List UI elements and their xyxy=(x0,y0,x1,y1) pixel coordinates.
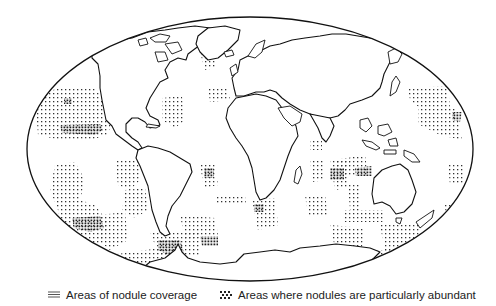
continents xyxy=(92,26,434,284)
australia xyxy=(372,164,416,214)
legend: Areas of nodule coverage Areas where nod… xyxy=(0,289,496,305)
legend-item-abundant: Areas where nodules are particularly abu… xyxy=(220,289,476,301)
antarctica xyxy=(138,244,380,284)
legend-item-coverage: Areas of nodule coverage xyxy=(48,289,197,301)
fine-dot-hatch-icon xyxy=(48,291,60,299)
legend-label-coverage: Areas of nodule coverage xyxy=(66,289,197,301)
japan xyxy=(390,76,400,96)
madagascar xyxy=(294,166,302,184)
india xyxy=(310,114,334,142)
world-map xyxy=(0,0,496,286)
legend-label-abundant: Areas where nodules are particularly abu… xyxy=(238,289,476,301)
dense-cross-dot-icon xyxy=(220,291,232,299)
